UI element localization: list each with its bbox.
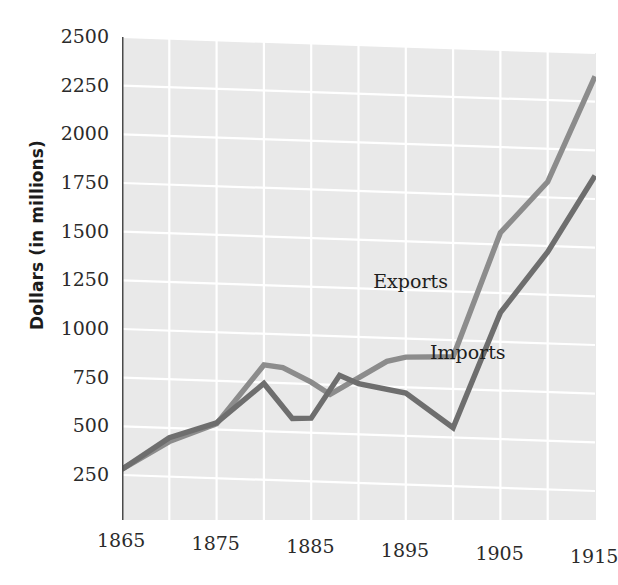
plot-area [122,33,596,520]
x-tick-1865: 1865 [97,531,145,550]
x-tick-1905: 1905 [475,544,523,563]
series-label-exports: Exports [373,270,448,292]
x-tick-1915: 1915 [570,547,618,566]
x-tick-1875: 1875 [192,534,240,553]
x-tick-1885: 1885 [286,537,334,556]
chart-svg [122,33,596,520]
x-tick-1895: 1895 [381,541,429,560]
series-label-imports: Imports [430,341,506,363]
